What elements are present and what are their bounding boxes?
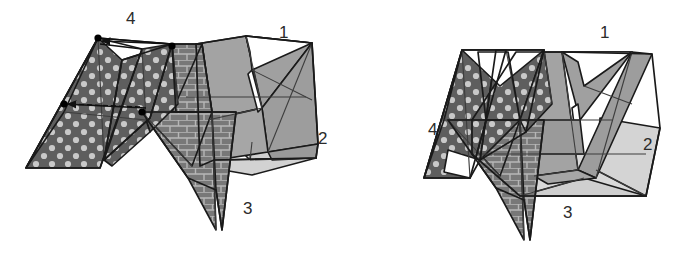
right-view-group	[424, 50, 660, 240]
label-panel-3-right: 3	[563, 204, 572, 221]
label-panel-1-right: 1	[600, 24, 609, 41]
diagram-canvas: 4 1 2 3 1 2 3 4	[0, 0, 674, 263]
label-panel-2-left: 2	[318, 130, 327, 147]
label-panel-4-left: 4	[126, 10, 135, 27]
label-panel-4-right: 4	[428, 121, 437, 138]
folding-diagram-svg	[0, 0, 674, 263]
left-view-group	[26, 34, 318, 230]
label-panel-1-left: 1	[279, 24, 288, 41]
label-panel-2-right: 2	[643, 136, 652, 153]
label-panel-3-left: 3	[243, 200, 252, 217]
